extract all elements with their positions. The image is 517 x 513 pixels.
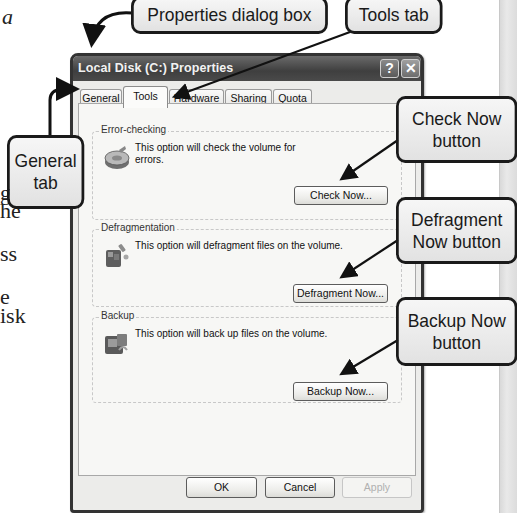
callout-check-now: Check Now button [396,96,517,163]
error-checking-group: Error-checking This option will check th… [92,131,402,220]
backup-icon [103,330,131,358]
defragment-now-button[interactable]: Defragment Now... [293,284,388,303]
callout-general-tab-line2: tab [33,172,57,194]
callout-tools-tab-text: Tools tab [359,4,429,26]
defragment-icon [103,242,131,270]
callout-check-now-line2: button [432,130,481,152]
close-icon: ✕ [405,60,417,76]
close-button[interactable]: ✕ [401,59,420,78]
disk-check-icon [103,144,131,172]
callout-defragment-now-line2: Now button [413,231,501,253]
callout-check-now-line1: Check Now [412,108,501,130]
cancel-button[interactable]: Cancel [265,477,335,498]
callout-general-tab-line1: General [15,150,77,172]
callout-tools-tab: Tools tab [345,0,443,34]
callout-properties-dialog-text: Properties dialog box [147,4,311,26]
page-text-fragment: a [2,6,13,28]
tab-tools[interactable]: Tools [123,86,168,108]
defragmentation-label: Defragmentation [99,222,177,233]
defragmentation-group: Defragmentation This option will defragm… [92,229,402,307]
defragmentation-description: This option will defragment files on the… [135,240,395,252]
dialog-title: Local Disk (C:) Properties [78,61,233,75]
ok-button[interactable]: OK [186,477,257,498]
backup-description: This option will back up files on the vo… [135,328,395,340]
backup-label: Backup [99,310,136,321]
properties-dialog: Local Disk (C:) Properties ? ✕ General T… [70,53,424,513]
error-checking-label: Error-checking [99,124,168,135]
check-now-button[interactable]: Check Now... [294,186,388,205]
help-icon: ? [385,60,394,76]
backup-now-button[interactable]: Backup Now... [293,382,388,401]
tools-tab-panel: Error-checking This option will check th… [78,103,416,476]
callout-defragment-now-line1: Defragment [411,209,502,231]
callout-backup-now: Backup Now button [396,297,517,366]
callout-general-tab: General tab [7,135,84,209]
backup-group: Backup This option will back up files on… [92,317,402,403]
page-text-fragment: ss [0,243,17,265]
help-button[interactable]: ? [380,59,399,78]
callout-backup-now-line1: Backup Now [408,310,506,332]
callout-defragment-now: Defragment Now button [396,197,517,264]
callout-backup-now-line2: button [432,332,481,354]
apply-button[interactable]: Apply [342,477,412,498]
error-checking-description: This option will check the volume for er… [135,142,325,166]
title-bar[interactable]: Local Disk (C:) Properties ? ✕ [73,56,421,81]
callout-properties-dialog: Properties dialog box [131,0,328,34]
page-text-fragment: isk [0,305,26,327]
